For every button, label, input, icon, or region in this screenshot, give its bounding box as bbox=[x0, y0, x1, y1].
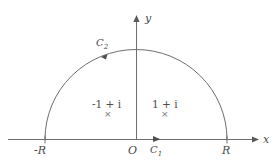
x-axis-label: x bbox=[263, 134, 269, 145]
pole-label-one-plus-i: 1 + i bbox=[152, 99, 178, 110]
pole-label-minus-one-plus-i: -1 + i bbox=[92, 99, 121, 110]
contour-label-c1-subscript: 1 bbox=[158, 150, 162, 158]
pole-marker-one-plus-i: × bbox=[161, 110, 169, 119]
tick-label-r: R bbox=[222, 145, 230, 156]
contour-label-c2-subscript: 2 bbox=[104, 43, 108, 51]
c1-direction-arrowhead bbox=[153, 136, 161, 142]
contour-label-c2-letter: C bbox=[96, 37, 104, 48]
contour-label-c1: C1 bbox=[150, 145, 162, 158]
contour-label-c1-letter: C bbox=[150, 144, 158, 155]
origin-label: O bbox=[128, 145, 137, 156]
contour-label-c2: C2 bbox=[96, 38, 108, 51]
y-axis-label: y bbox=[145, 13, 151, 24]
y-axis-arrowhead bbox=[133, 15, 139, 22]
pole-marker-minus-one-plus-i: × bbox=[104, 110, 112, 119]
diagram-canvas bbox=[0, 0, 278, 168]
tick-label-minus-r: -R bbox=[34, 145, 46, 156]
x-axis-arrowhead bbox=[252, 136, 259, 142]
contour-diagram: y x O -R R C1 C2 -1 + i × 1 + i × bbox=[0, 0, 278, 168]
